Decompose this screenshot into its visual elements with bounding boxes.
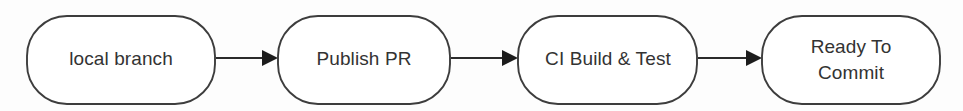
node-label-publish-pr: Publish PR (317, 48, 412, 69)
flow-node-ready-to-commit[interactable]: Ready To Commit (762, 16, 940, 104)
flow-edge-ci-build-test-to-ready-to-commit (698, 50, 762, 66)
node-label-ready-to-commit-line1: Ready To (811, 36, 892, 57)
arrowhead-icon (502, 50, 518, 66)
node-shape-ready-to-commit[interactable] (762, 16, 940, 104)
flowchart-diagram: local branch Publish PR CI Build & Test … (0, 0, 963, 111)
node-label-ci-build-test: CI Build & Test (545, 48, 671, 69)
node-label-ready-to-commit-line2: Commit (818, 62, 885, 83)
flow-edge-publish-pr-to-ci-build-test (451, 50, 518, 66)
flow-node-ci-build-test[interactable]: CI Build & Test (518, 16, 697, 104)
flowchart-canvas: local branch Publish PR CI Build & Test … (0, 0, 963, 111)
arrowhead-icon (262, 50, 278, 66)
flow-node-publish-pr[interactable]: Publish PR (278, 16, 450, 104)
node-label-local-branch: local branch (69, 48, 173, 69)
flow-edge-local-branch-to-publish-pr (216, 50, 278, 66)
flow-node-local-branch[interactable]: local branch (27, 16, 215, 104)
arrowhead-icon (746, 50, 762, 66)
